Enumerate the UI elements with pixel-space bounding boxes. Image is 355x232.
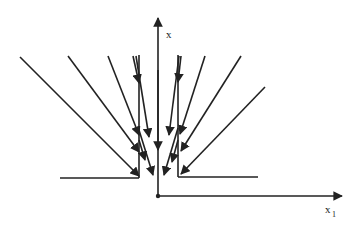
left-arrow-3 bbox=[108, 56, 139, 135]
right-arrow-3 bbox=[180, 56, 205, 134]
left-arrow-6 bbox=[139, 140, 145, 160]
diagram-canvas: x x 1 bbox=[0, 0, 355, 232]
vertical-axis-label: x bbox=[166, 28, 172, 40]
origin-dot bbox=[156, 194, 160, 198]
left-arrow-2 bbox=[68, 56, 139, 152]
horizontal-axis-subscript: 1 bbox=[332, 210, 336, 219]
left-arrow-7 bbox=[139, 130, 153, 175]
horizontal-axis-label: x bbox=[325, 203, 331, 215]
right-arrow-7 bbox=[164, 128, 178, 175]
left-arrow-1 bbox=[20, 57, 139, 176]
left-arrow-5 bbox=[136, 56, 149, 137]
